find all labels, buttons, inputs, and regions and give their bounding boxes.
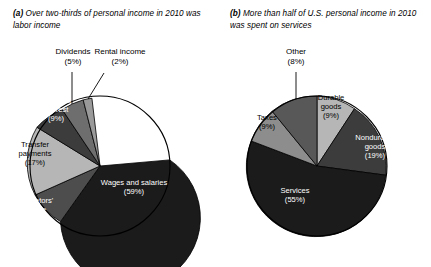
label-personal-interest-l2: interest — [25, 105, 87, 114]
label-personal-interest-pct: (9%) — [25, 114, 87, 123]
label-proprietors-income-l2: income — [2, 205, 66, 214]
label-transfer-payments-pct: (17%) — [0, 158, 70, 167]
label-proprietors-income-pct: (8%) — [2, 214, 66, 223]
label-nondurable-goods-l1: Nondurable — [336, 133, 414, 142]
callout-other-name: Other — [268, 47, 324, 57]
callout-rental-income-pct: (2%) — [80, 57, 160, 67]
figure-root: (a) Over two-thirds of personal income i… — [0, 0, 431, 267]
label-proprietors-income: Proprietors' income (8%) — [2, 196, 66, 224]
callout-rental-income-name: Rental income — [80, 47, 160, 57]
label-taxes: Taxes (9%) — [244, 113, 290, 131]
panel-a: (a) Over two-thirds of personal income i… — [0, 0, 215, 267]
label-nondurable-goods-l2: goods — [336, 142, 414, 151]
label-proprietors-income-l1: Proprietors' — [2, 196, 66, 205]
label-services-name: Services — [264, 186, 326, 195]
label-durable-goods-pct: (9%) — [302, 111, 360, 120]
callout-other-pct: (8%) — [268, 57, 324, 67]
label-durable-goods-l2: goods — [302, 102, 360, 111]
callout-rental-income: Rental income (2%) — [80, 47, 160, 66]
label-nondurable-goods: Nondurable goods (19%) — [336, 133, 414, 161]
label-wages-and-salaries: Wages and salaries (59%) — [83, 178, 185, 196]
label-services: Services (55%) — [264, 186, 326, 204]
label-transfer-payments-l2: payments — [0, 149, 70, 158]
label-personal-interest: Personal interest (9%) — [25, 96, 87, 124]
label-wages-and-salaries-name: Wages and salaries — [83, 178, 185, 187]
label-durable-goods-l1: Durable — [302, 93, 360, 102]
panel-b: (b) More than half of U.S. personal inco… — [216, 0, 431, 267]
label-transfer-payments-l1: Transfer — [0, 140, 70, 149]
label-taxes-name: Taxes — [244, 113, 290, 122]
leader-line-rental-income — [88, 73, 104, 99]
callout-other: Other (8%) — [268, 47, 324, 66]
pie-chart-a — [0, 0, 215, 267]
label-durable-goods: Durable goods (9%) — [302, 93, 360, 121]
label-services-pct: (55%) — [264, 195, 326, 204]
label-nondurable-goods-pct: (19%) — [336, 151, 414, 160]
label-wages-and-salaries-pct: (59%) — [83, 187, 185, 196]
label-personal-interest-l1: Personal — [25, 96, 87, 105]
label-transfer-payments: Transfer payments (17%) — [0, 140, 70, 168]
label-taxes-pct: (9%) — [244, 122, 290, 131]
